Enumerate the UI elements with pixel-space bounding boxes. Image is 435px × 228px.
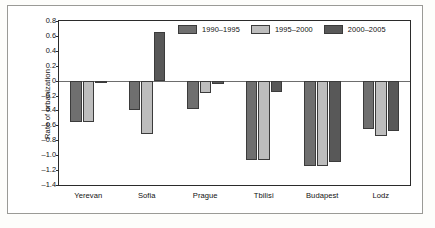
x-tick-label: Sofia (138, 191, 156, 200)
bars-layer (59, 21, 410, 185)
bar (212, 81, 224, 85)
y-tick-label: 0.2 (46, 62, 56, 69)
chart-legend: 1990–19951995–20002000–2005 (178, 25, 386, 34)
bar (246, 81, 258, 161)
x-tick-label: Yerevan (74, 191, 102, 200)
y-tick-label: –1.2 (42, 166, 56, 173)
y-tick-mark (56, 185, 60, 186)
legend-swatch (324, 25, 343, 34)
legend-swatch (251, 25, 270, 34)
bar (187, 81, 199, 109)
y-tick-label: –0.6 (42, 122, 56, 129)
plot-area: Rate of urbanization 0.80.60.40.20–0.2–0… (58, 20, 411, 186)
y-tick-label: 0.4 (46, 47, 56, 54)
bar (141, 81, 153, 134)
y-tick-label: –0.2 (42, 92, 56, 99)
bar (271, 81, 283, 92)
x-tick-label: Tbilisi (254, 191, 274, 200)
legend-label: 2000–2005 (348, 26, 386, 33)
x-tick-label: Prague (193, 191, 218, 200)
bar (317, 81, 329, 167)
bar (129, 81, 141, 110)
bar (83, 81, 95, 123)
y-tick-label: –0.4 (42, 107, 56, 114)
legend-item: 1995–2000 (251, 25, 313, 34)
legend-item: 1990–1995 (178, 25, 240, 34)
legend-swatch (178, 25, 197, 34)
bar (304, 81, 316, 167)
bar (388, 81, 400, 131)
bar (154, 32, 166, 80)
bar (329, 81, 341, 162)
legend-item: 2000–2005 (324, 25, 386, 34)
y-tick-label: –1.0 (42, 151, 56, 158)
bar (375, 81, 387, 136)
legend-label: 1990–1995 (202, 26, 240, 33)
chart-figure: Rate of urbanization 0.80.60.40.20–0.2–0… (0, 0, 435, 228)
legend-label: 1995–2000 (275, 26, 313, 33)
x-tick-label: Budapest (306, 191, 339, 200)
y-tick-label: 0.8 (46, 17, 56, 24)
bar (363, 81, 375, 129)
y-tick-label: 0.6 (46, 32, 56, 39)
bar (70, 81, 82, 123)
bar (200, 81, 212, 93)
bar (258, 81, 270, 161)
bar (95, 81, 107, 83)
y-tick-label: –0.8 (42, 137, 56, 144)
y-tick-label: –1.4 (42, 181, 56, 188)
x-tick-label: Lodz (372, 191, 389, 200)
